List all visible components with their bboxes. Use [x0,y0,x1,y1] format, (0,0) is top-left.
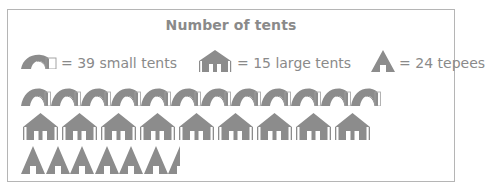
small-tent-icon [141,86,171,106]
large-tent-icon-mark [99,113,138,140]
legend-label-large-tents: = 15 large tents [237,55,351,71]
small-tent-icon [21,53,57,73]
small-tent-icon [111,86,141,106]
small-tent-icon-mark [51,86,81,106]
small-tent-icon-mark [111,86,141,106]
small-tent-icon [261,86,291,106]
small-tent-icon-mark [21,86,51,106]
small-tent-icon-mark [351,86,381,106]
large-tent-icon [294,113,333,140]
small-tent-icon-mark [231,86,261,106]
small-tent-icon [321,86,351,106]
tepee-icon [95,146,120,174]
small-tent-icon-mark [141,86,171,106]
small-tent-icon [21,86,51,106]
tepee-icon [144,146,169,174]
tepee-icon-mark [168,146,180,174]
legend-item-small-tents: = 39 small tents [21,53,177,73]
chart-title: Number of tents [8,17,454,33]
small-tent-icon [201,86,231,106]
large-tent-icon [197,50,233,76]
row-large-tents [21,113,372,140]
tepee-icon [21,146,46,174]
tepee-icon [46,146,71,174]
small-tent-icon-mark [201,86,231,106]
small-tent-icon [231,86,261,106]
small-tent-icon [171,86,201,106]
tepee-icon-mark [119,146,144,174]
large-tent-icon [216,113,255,140]
small-tent-icon-mark [171,86,201,106]
tepee-icon-mark [95,146,120,174]
large-tent-icon-mark [21,113,60,140]
small-tent-icon [351,86,381,106]
large-tent-icon-mark [294,113,333,140]
small-tent-icon-mark [321,86,351,106]
legend-item-tepees: = 24 tepees [371,50,485,76]
tepee-icon-mark [144,146,169,174]
legend-label-small-tents: = 39 small tents [61,55,177,71]
large-tent-icon-mark [60,113,99,140]
tepee-icon-mark [21,146,46,174]
large-tent-icon-mark [216,113,255,140]
row-small-tents [21,86,381,106]
small-tent-icon-mark [81,86,111,106]
small-tent-icon-mark [261,86,291,106]
pictograph-frame: Number of tents = 39 small tents = 15 l [7,9,455,182]
tepee-icon [119,146,144,174]
tepee-icon [371,50,395,76]
large-tent-icon [177,113,216,140]
row-tepees [21,146,180,174]
large-tent-icon-mark [138,113,177,140]
small-tent-icon [51,86,81,106]
large-tent-icon [21,113,60,140]
large-tent-icon [255,113,294,140]
large-tent-icon-mark [255,113,294,140]
tepee-icon [70,146,95,174]
small-tent-icon [81,86,111,106]
legend-item-large-tents: = 15 large tents [197,50,351,76]
tepee-icon-mark [46,146,71,174]
large-tent-icon [99,113,138,140]
legend-label-tepees: = 24 tepees [399,55,485,71]
legend: = 39 small tents = 15 large tents = 24 t… [21,52,489,74]
small-tent-icon [291,86,321,106]
small-tent-icon-mark [291,86,321,106]
large-tent-icon [333,113,372,140]
large-tent-icon-mark [333,113,372,140]
large-tent-icon [138,113,177,140]
tepee-icon [168,146,180,174]
tepee-icon-mark [70,146,95,174]
large-tent-icon [60,113,99,140]
large-tent-icon-mark [177,113,216,140]
